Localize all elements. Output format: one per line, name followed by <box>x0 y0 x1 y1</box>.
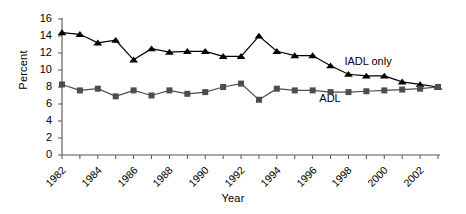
data-point-marker <box>292 87 298 93</box>
data-point-marker <box>184 91 190 97</box>
data-point-marker <box>149 93 155 99</box>
data-point-marker <box>131 87 137 93</box>
data-point-marker <box>95 86 101 92</box>
data-point-marker <box>111 37 120 43</box>
data-point-marker <box>310 87 316 93</box>
plot-area <box>0 0 466 214</box>
data-point-marker <box>328 89 334 95</box>
data-point-marker <box>417 86 423 92</box>
data-point-marker <box>256 97 262 103</box>
data-point-marker <box>363 88 369 94</box>
data-point-marker <box>113 93 119 99</box>
data-point-marker <box>220 84 226 90</box>
data-point-marker <box>238 81 244 87</box>
data-point-marker <box>381 87 387 93</box>
data-point-marker <box>435 84 441 90</box>
data-point-marker <box>202 89 208 95</box>
data-point-marker <box>166 87 172 93</box>
data-point-marker <box>147 45 156 51</box>
data-point-marker <box>77 87 83 93</box>
data-point-marker <box>59 81 65 87</box>
data-point-marker <box>344 71 353 77</box>
data-point-marker <box>255 33 264 39</box>
chart-figure: Percent Year 0246810121416 1982198419861… <box>0 0 466 214</box>
data-point-marker <box>274 86 280 92</box>
data-point-marker <box>58 29 67 35</box>
data-point-marker <box>399 87 405 93</box>
data-point-marker <box>398 79 407 85</box>
data-point-marker <box>345 89 351 95</box>
